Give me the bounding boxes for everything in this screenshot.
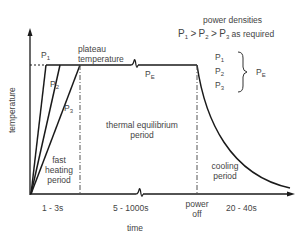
legend-brace-target: PE xyxy=(256,67,266,78)
brace-icon xyxy=(238,52,247,92)
curve-label-p2: P2 xyxy=(50,79,59,90)
legend-items: P1 P2 P3 xyxy=(215,51,224,93)
curve-label-p3: P3 xyxy=(64,103,73,114)
cooling-period-label: cooling period xyxy=(205,161,245,181)
y-axis-arrow-icon xyxy=(28,28,33,36)
tick-cooling: 20 - 40s xyxy=(226,203,257,213)
x-axis-break-icon xyxy=(136,189,143,197)
curve-label-p1: P1 xyxy=(41,50,50,61)
y-axis-label: temperature xyxy=(7,87,17,133)
legend-title: power densities xyxy=(203,15,262,25)
legend-relation: P1 > P2 > P3 as required xyxy=(178,29,274,40)
plateau-power-label: PE xyxy=(145,69,155,80)
tick-power-off: power off xyxy=(182,199,212,219)
fast-heating-period-label: fast heating period xyxy=(40,155,78,185)
plateau-label: plateau temperature xyxy=(78,44,124,64)
tick-heating: 1 - 3s xyxy=(42,203,63,213)
plateau-break-icon xyxy=(131,60,138,68)
tick-equilibrium: 5 - 1000s xyxy=(113,203,148,213)
x-axis-label: time xyxy=(127,223,143,233)
equilibrium-period-label: thermal equilibrium period xyxy=(92,120,192,140)
x-axis-arrow-icon xyxy=(287,192,295,197)
